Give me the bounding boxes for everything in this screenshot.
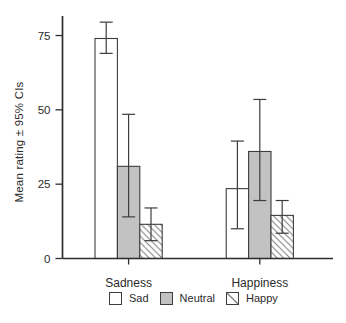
legend-swatch-sad-icon — [109, 292, 122, 305]
x-axis: SadnessHappiness — [63, 259, 334, 290]
y-tick-label: 50 — [38, 104, 51, 116]
bar-sad-sadness — [95, 38, 117, 258]
legend-swatch-neutral-icon — [160, 292, 173, 305]
legend-label-sad: Sad — [129, 292, 149, 305]
x-category-label: Sadness — [105, 276, 152, 290]
legend-label-happy: Happy — [246, 292, 278, 305]
legend-item-happy: Happy — [226, 292, 278, 305]
bar-chart-figure: Mean rating ± 95% CIs 0255075 SadnessHap… — [0, 0, 346, 323]
legend: Sad Neutral Happy — [109, 292, 278, 305]
y-axis-label: Mean rating ± 95% CIs — [13, 81, 25, 202]
y-tick-label: 0 — [44, 253, 50, 265]
legend-swatch-happy-icon — [226, 292, 239, 305]
bars-group — [95, 38, 293, 258]
y-axis: 0255075 — [38, 16, 63, 265]
legend-item-sad: Sad — [109, 292, 149, 305]
y-tick-label: 25 — [38, 178, 51, 190]
legend-label-neutral: Neutral — [180, 292, 215, 305]
bar-chart: Mean rating ± 95% CIs 0255075 SadnessHap… — [0, 0, 346, 323]
legend-item-neutral: Neutral — [160, 292, 215, 305]
y-tick-label: 75 — [38, 30, 51, 42]
x-category-label: Happiness — [231, 276, 288, 290]
